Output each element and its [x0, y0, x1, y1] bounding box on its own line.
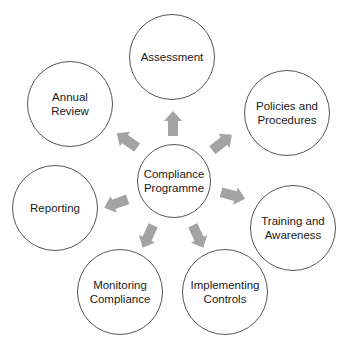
arrow-icon-to-reporting: [101, 190, 131, 215]
node-label: Monitoring Compliance: [86, 278, 155, 306]
center-node-compliance-programme: Compliance Programme: [137, 144, 211, 218]
node-label: Policies and Procedures: [252, 99, 322, 127]
arrow-icon-to-implementing: [185, 221, 212, 251]
node-label: Assessment: [137, 50, 208, 64]
arrow-icon-to-assessment: [164, 111, 182, 136]
compliance-programme-diagram: Compliance Programme Assessment Policies…: [0, 0, 343, 346]
node-policies-and-procedures: Policies and Procedures: [244, 70, 330, 156]
node-label: Training and Awareness: [257, 214, 329, 242]
node-reporting: Reporting: [12, 165, 98, 251]
arrow-icon-to-annual-review: [112, 125, 143, 154]
node-assessment: Assessment: [129, 14, 215, 100]
node-label: Annual Review: [28, 90, 112, 118]
arrow-icon-to-monitoring: [135, 221, 162, 251]
center-node-label: Compliance Programme: [140, 167, 209, 195]
arrow-icon-to-policies: [207, 127, 238, 157]
node-annual-review: Annual Review: [27, 61, 113, 147]
node-training-and-awareness: Training and Awareness: [250, 185, 336, 271]
node-monitoring-compliance: Monitoring Compliance: [77, 249, 163, 335]
node-label: Reporting: [26, 201, 84, 215]
arrow-icon-to-training: [219, 183, 248, 207]
node-label: Implementing Controls: [186, 278, 263, 306]
node-implementing-controls: Implementing Controls: [182, 249, 268, 335]
